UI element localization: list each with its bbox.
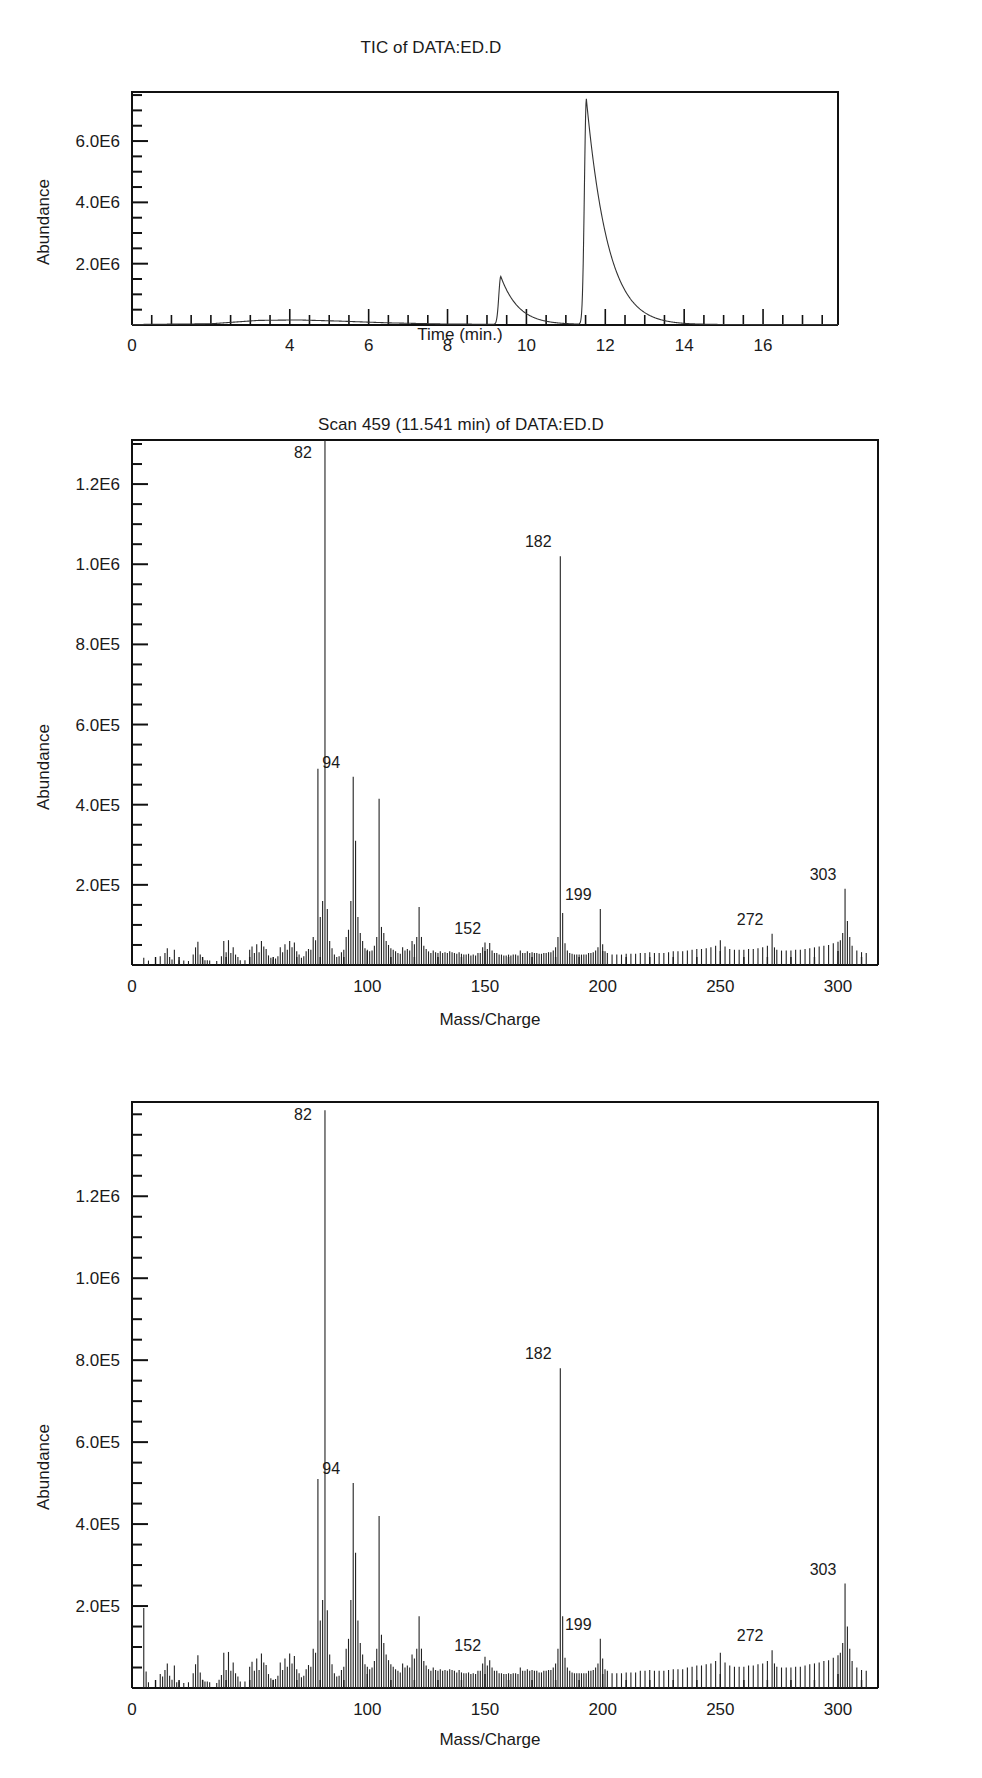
- y-tick-label: 6.0E5: [76, 1433, 120, 1452]
- y-tick-label: 4.0E6: [76, 193, 120, 212]
- x-tick-label: 14: [675, 336, 694, 355]
- peak-label-82: 82: [294, 1106, 312, 1123]
- peak-label-303: 303: [810, 1561, 837, 1578]
- x-tick-label: 150: [471, 977, 499, 996]
- panel-library-spectrum: Abundance Mass/Charge 2.0E54.0E56.0E58.0…: [0, 1080, 982, 1778]
- x-tick-label: 0: [127, 1700, 136, 1719]
- y-tick-label: 6.0E6: [76, 132, 120, 151]
- peak-label-82: 82: [294, 444, 312, 461]
- x-tick-label: 200: [588, 1700, 616, 1719]
- y-tick-label: 4.0E5: [76, 796, 120, 815]
- peak-label-199: 199: [565, 886, 592, 903]
- x-tick-label: 6: [364, 336, 373, 355]
- x-tick-label: 200: [588, 977, 616, 996]
- x-tick-label: 4: [285, 336, 294, 355]
- panel-scan-459: Scan 459 (11.541 min) of DATA:ED.D Abund…: [0, 410, 982, 1050]
- x-tick-label: 16: [754, 336, 773, 355]
- x-tick-label: 0: [127, 336, 136, 355]
- x-tick-label: 300: [824, 1700, 852, 1719]
- peak-label-199: 199: [565, 1616, 592, 1633]
- x-tick-label: 12: [596, 336, 615, 355]
- y-tick-label: 2.0E6: [76, 255, 120, 274]
- y-tick-label: 6.0E5: [76, 716, 120, 735]
- x-tick-label: 0: [127, 977, 136, 996]
- x-tick-label: 150: [471, 1700, 499, 1719]
- x-tick-label: 250: [706, 977, 734, 996]
- peak-label-152: 152: [454, 920, 481, 937]
- x-tick-label: 250: [706, 1700, 734, 1719]
- stick-series: [144, 440, 866, 965]
- y-tick-label: 1.2E6: [76, 1187, 120, 1206]
- plot-frame: [132, 1102, 878, 1688]
- y-tick-label: 8.0E5: [76, 1351, 120, 1370]
- y-tick-label: 1.2E6: [76, 475, 120, 494]
- tic-trace: [132, 99, 838, 325]
- plot-frame: [132, 440, 878, 965]
- peak-label-182: 182: [525, 533, 552, 550]
- library-plot-area[interactable]: 2.0E54.0E56.0E58.0E51.0E61.2E60100150200…: [0, 1080, 982, 1778]
- y-tick-label: 8.0E5: [76, 635, 120, 654]
- x-tick-label: 8: [443, 336, 452, 355]
- y-tick-label: 1.0E6: [76, 1269, 120, 1288]
- y-tick-label: 1.0E6: [76, 555, 120, 574]
- peak-label-303: 303: [810, 866, 837, 883]
- x-tick-label: 100: [353, 977, 381, 996]
- peak-label-94: 94: [322, 754, 340, 771]
- scan-plot-area[interactable]: 2.0E54.0E56.0E58.0E51.0E61.2E60100150200…: [0, 410, 982, 1050]
- y-tick-label: 4.0E5: [76, 1515, 120, 1534]
- peak-label-94: 94: [322, 1460, 340, 1477]
- y-tick-label: 2.0E5: [76, 876, 120, 895]
- panel-tic: TIC of DATA:ED.D Abundance Time (min.) 2…: [0, 30, 982, 360]
- x-tick-label: 100: [353, 1700, 381, 1719]
- peak-label-182: 182: [525, 1345, 552, 1362]
- y-tick-label: 2.0E5: [76, 1597, 120, 1616]
- x-tick-label: 300: [824, 977, 852, 996]
- plot-frame: [132, 92, 838, 325]
- tic-plot-area[interactable]: 2.0E64.0E66.0E6046810121416: [0, 30, 982, 360]
- peak-label-152: 152: [454, 1637, 481, 1654]
- peak-label-272: 272: [737, 911, 764, 928]
- x-tick-label: 10: [517, 336, 536, 355]
- stick-series: [144, 1110, 866, 1688]
- peak-label-272: 272: [737, 1627, 764, 1644]
